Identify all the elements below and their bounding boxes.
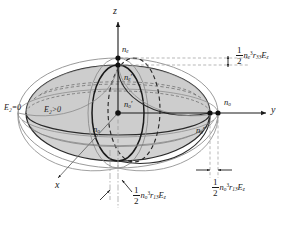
vertex-ne (115, 55, 120, 60)
delta-ne-expr: ne3r33Ez (244, 50, 269, 60)
vertex-ne-prime (115, 62, 120, 67)
callout-arrows-bottom (100, 180, 132, 200)
delta-no-right-expr: no3r13Ez (220, 182, 245, 192)
vertex-no-prime-right (207, 110, 212, 115)
annotation-delta-no-bottom: 1 2 no3r13Ez (133, 186, 166, 206)
index-label-no-left: no (93, 125, 100, 134)
field-label-ez-positive-text: E₂>0 (44, 105, 61, 114)
index-label-no-right: no (224, 98, 231, 107)
field-label-ez-zero-text: E₂=0 (4, 103, 21, 112)
index-label-no-prime-center: no′ (124, 100, 133, 109)
index-label-ne: ne (122, 45, 129, 54)
field-label-ez-positive: E₂>0 (44, 106, 61, 114)
fraction-one-half-top: 1 2 (236, 46, 243, 66)
fraction-one-half-right: 1 2 (212, 178, 219, 198)
axis-label-z: z (113, 6, 117, 16)
vertex-no-right (215, 110, 220, 115)
fraction-one-half-bottom: 1 2 (133, 186, 140, 206)
axis-label-x: x (55, 180, 59, 190)
annotation-delta-no-right: 1 2 no3r13Ez (212, 178, 245, 198)
index-ellipsoid-figure: z y x E₂=0 E₂>0 ne ne′ no′ no no no′ 1 2… (0, 0, 289, 225)
field-label-ez-zero: E₂=0 (4, 104, 21, 112)
axis-label-y: y (271, 105, 275, 115)
annotation-delta-ne: 1 2 ne3r33Ez (236, 46, 269, 66)
index-label-no-prime-right: no′ (196, 126, 205, 135)
delta-no-bottom-expr: no3r13Ez (141, 190, 166, 200)
index-label-ne-prime: ne′ (124, 73, 132, 82)
vertex-origin-no (115, 110, 121, 116)
